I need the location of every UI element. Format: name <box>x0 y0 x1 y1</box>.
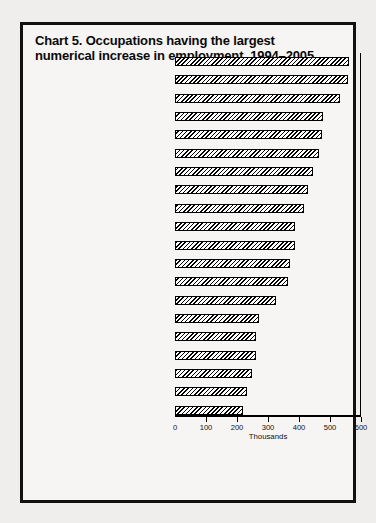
bar <box>175 94 340 103</box>
bar <box>175 57 349 66</box>
chart-frame: Chart 5. Occupations having the largest … <box>20 22 356 503</box>
x-axis-tick <box>237 417 238 422</box>
bar <box>175 277 288 286</box>
bar <box>175 75 348 84</box>
chart-canvas: Chart 5. Occupations having the largest … <box>23 25 353 500</box>
bar <box>175 314 259 323</box>
bar <box>175 369 252 378</box>
bar <box>175 204 304 213</box>
bar <box>175 149 319 158</box>
bar <box>175 296 276 305</box>
x-axis-tick-label: 400 <box>293 423 306 432</box>
bar <box>175 112 323 121</box>
bar <box>175 130 322 139</box>
x-axis-tick-label: 200 <box>231 423 244 432</box>
x-axis-tick-label: 100 <box>200 423 213 432</box>
bar <box>175 332 256 341</box>
x-axis-tick-label: 300 <box>262 423 275 432</box>
bar <box>175 185 308 194</box>
x-axis-label: Thousands <box>175 432 361 441</box>
x-axis-tick <box>330 417 331 422</box>
x-axis-tick <box>361 417 362 422</box>
x-axis-tick <box>206 417 207 422</box>
x-axis-ticks: 0100200300400500600 <box>175 417 361 433</box>
chart-page: Chart 5. Occupations having the largest … <box>0 0 376 523</box>
x-axis-tick-label: 0 <box>173 423 177 432</box>
bar <box>175 387 247 396</box>
bar <box>175 259 290 268</box>
x-axis-tick <box>268 417 269 422</box>
bar <box>175 167 313 176</box>
x-axis-tick-label: 500 <box>324 423 337 432</box>
bar <box>175 351 256 360</box>
bar <box>175 241 295 250</box>
x-axis-tick-label: 600 <box>355 423 368 432</box>
bar <box>175 222 295 231</box>
x-axis-tick <box>299 417 300 422</box>
bar <box>175 406 243 415</box>
plot-right-edge <box>360 53 361 417</box>
plot-area: CashiersJanitors and cleanersSalesperson… <box>23 25 353 500</box>
